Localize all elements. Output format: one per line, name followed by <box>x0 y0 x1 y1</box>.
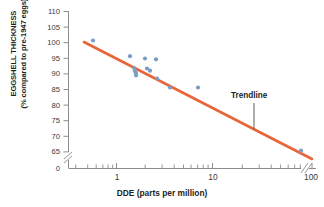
data-point <box>299 148 303 152</box>
data-point <box>143 56 147 60</box>
x-tick-marks-minor <box>76 165 300 169</box>
y-tick-label-0: 0 <box>18 164 60 173</box>
x-tick-label-100: 100 <box>298 172 324 182</box>
x-tick-marks-major <box>117 163 313 169</box>
data-point <box>134 73 138 77</box>
y-tick-label-65: 65 <box>18 147 60 156</box>
y-tick-label-70: 70 <box>18 132 60 141</box>
data-points <box>91 38 303 152</box>
x-tick-label-10: 10 <box>201 172 225 182</box>
data-point <box>154 57 158 61</box>
data-point <box>155 76 159 80</box>
data-point <box>168 85 172 89</box>
data-point <box>196 85 200 89</box>
data-point <box>128 54 132 58</box>
x-axis-title: DDE (parts per million) <box>0 188 324 198</box>
y-axis-title: EGGSHELL THICKNESS (% compared to pre-19… <box>9 0 28 129</box>
y-axis-title-line1: EGGSHELL THICKNESS <box>9 0 19 129</box>
x-tick-label-1: 1 <box>106 172 128 182</box>
y-tick-marks <box>64 12 69 152</box>
scatter-chart: 110 105 100 95 90 85 80 75 70 65 0 1 10 … <box>0 0 324 207</box>
data-point <box>91 38 95 42</box>
data-point <box>148 69 152 73</box>
y-axis-title-line2: (% compared to pre-1947 eggs) <box>19 0 29 129</box>
trendline <box>84 42 312 159</box>
trendline-annotation-label: Trendline <box>231 91 267 100</box>
